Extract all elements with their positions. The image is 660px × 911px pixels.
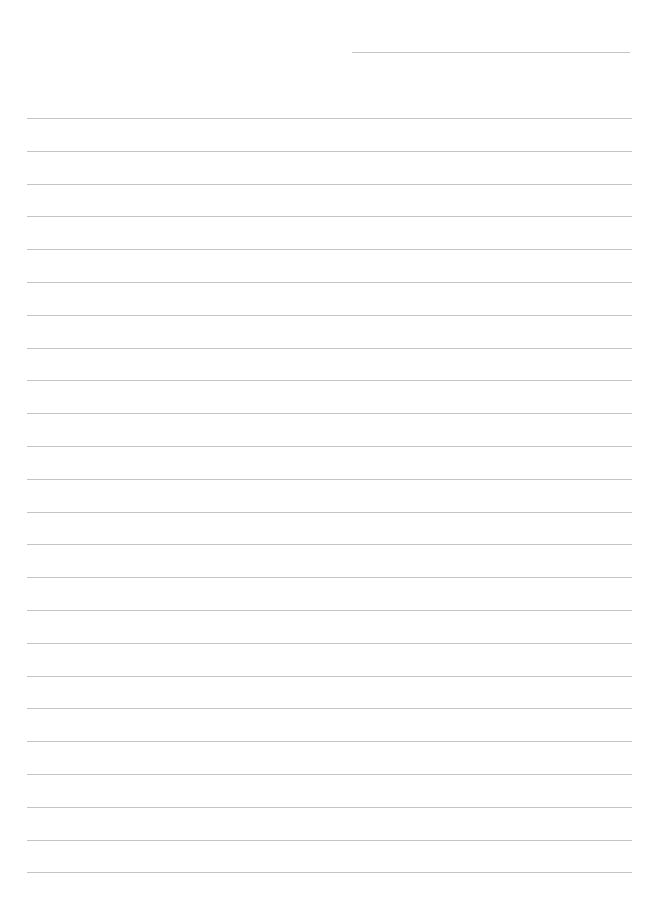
ruled-line (27, 643, 632, 644)
ruled-line (27, 282, 632, 283)
ruled-line (27, 708, 632, 709)
ruled-line (27, 118, 632, 119)
ruled-line (27, 807, 632, 808)
ruled-line (27, 413, 632, 414)
ruled-line (27, 741, 632, 742)
ruled-line (27, 479, 632, 480)
ruled-line (27, 577, 632, 578)
header-name-line (352, 52, 630, 53)
ruled-line (27, 315, 632, 316)
ruled-line (27, 774, 632, 775)
ruled-line (27, 676, 632, 677)
ruled-line (27, 872, 632, 873)
ruled-line (27, 216, 632, 217)
ruled-line (27, 840, 632, 841)
ruled-line (27, 610, 632, 611)
ruled-line (27, 249, 632, 250)
ruled-line (27, 512, 632, 513)
ruled-line (27, 380, 632, 381)
ruled-line (27, 544, 632, 545)
ruled-line (27, 151, 632, 152)
ruled-line (27, 184, 632, 185)
ruled-line (27, 348, 632, 349)
ruled-line (27, 446, 632, 447)
